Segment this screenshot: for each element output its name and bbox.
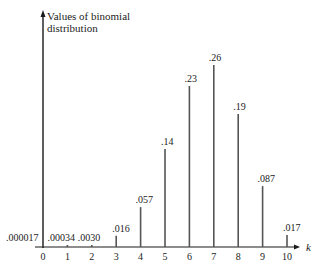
data-label-0: .000017 <box>6 232 39 243</box>
data-label-8: .19 <box>233 101 246 112</box>
data-label-6: .23 <box>184 73 197 84</box>
data-label-10: .017 <box>283 222 301 233</box>
data-labels: .000017.00034.0030.016.057.14.23.26.19.0… <box>6 52 301 243</box>
y-axis-label: Values of binomial distribution <box>47 10 130 34</box>
x-axis-arrow-icon <box>294 245 300 250</box>
stems <box>67 65 287 247</box>
binomial-distribution-chart: Values of binomial distribution k .00001… <box>0 0 320 271</box>
x-tick-6: 6 <box>187 251 192 262</box>
x-tick-9: 9 <box>260 251 265 262</box>
x-tick-labels: 012345678910 <box>41 251 293 262</box>
x-tick-2: 2 <box>89 251 94 262</box>
data-label-4: .057 <box>136 194 154 205</box>
data-label-2: .0030 <box>78 232 101 243</box>
plot-area: k .000017.00034.0030.016.057.14.23.26.19… <box>0 0 320 271</box>
y-axis-label-line-1: Values of binomial <box>47 10 130 22</box>
x-tick-4: 4 <box>138 251 143 262</box>
axes: k <box>35 10 312 253</box>
data-label-5: .14 <box>161 136 174 147</box>
x-tick-3: 3 <box>114 251 119 262</box>
x-tick-8: 8 <box>236 251 241 262</box>
x-axis-label: k <box>306 241 312 253</box>
x-tick-5: 5 <box>163 251 168 262</box>
x-tick-1: 1 <box>65 251 70 262</box>
x-tick-10: 10 <box>282 251 292 262</box>
data-label-7: .26 <box>209 52 222 63</box>
data-label-9: .087 <box>258 173 276 184</box>
x-tick-0: 0 <box>41 251 46 262</box>
y-axis-arrow-icon <box>41 10 46 17</box>
data-label-1: .00034 <box>47 232 75 243</box>
y-axis-label-line-2: distribution <box>47 22 130 34</box>
data-label-3: .016 <box>112 223 130 234</box>
x-tick-7: 7 <box>211 251 216 262</box>
